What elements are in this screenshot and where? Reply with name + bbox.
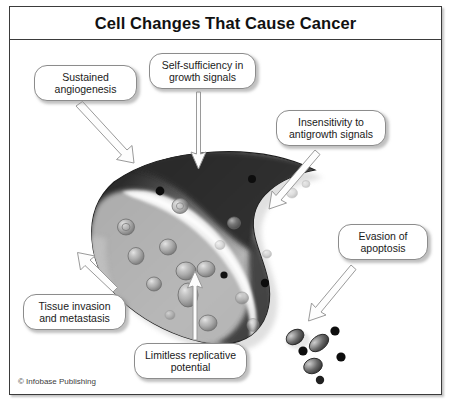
- callout-line-2: antigrowth signals: [289, 128, 373, 140]
- callout-limitless-replicative-potential[interactable]: Limitless replicative potential: [134, 343, 247, 379]
- figure-title-bar: Cell Changes That Cause Cancer: [10, 7, 441, 40]
- callout-line-1: Limitless replicative: [145, 349, 236, 361]
- arrow-self-sufficiency: [191, 92, 206, 169]
- callout-line-1: Sustained: [62, 71, 109, 83]
- callout-line-1: Self-sufficiency in: [162, 59, 244, 71]
- page-title: Cell Changes That Cause Cancer: [95, 14, 357, 33]
- callout-line-2: angiogenesis: [55, 83, 117, 95]
- budding-cells: [283, 326, 332, 376]
- callout-sustained-angiogenesis[interactable]: Sustained angiogenesis: [34, 65, 137, 101]
- callout-line-1: Evasion of: [358, 230, 407, 242]
- callout-line-2: potential: [171, 361, 211, 373]
- figure-frame: Cell Changes That Cause Cancer: [9, 6, 442, 395]
- callout-line-2: and metastasis: [39, 312, 110, 324]
- arrow-sustained-angiogenesis: [76, 102, 134, 164]
- callout-line-2: growth signals: [169, 71, 236, 83]
- arrow-evasion-of-apoptosis: [309, 265, 357, 321]
- callout-line-1: Tissue invasion: [39, 300, 111, 312]
- callout-line-1: Insensitivity to: [298, 116, 364, 128]
- callout-self-sufficiency-growth-signals[interactable]: Self-sufficiency in growth signals: [149, 53, 256, 89]
- diagram-canvas: Sustained angiogenesis Self-sufficiency …: [10, 40, 441, 394]
- budding-cell: [306, 331, 332, 356]
- callout-insensitivity-antigrowth-signals[interactable]: Insensitivity to antigrowth signals: [276, 110, 386, 146]
- callout-tissue-invasion-metastasis[interactable]: Tissue invasion and metastasis: [23, 294, 126, 330]
- callout-line-2: apoptosis: [361, 242, 406, 254]
- copyright-credit: © Infobase Publishing: [18, 377, 96, 386]
- callout-evasion-of-apoptosis[interactable]: Evasion of apoptosis: [338, 224, 428, 260]
- budding-cell: [302, 356, 325, 377]
